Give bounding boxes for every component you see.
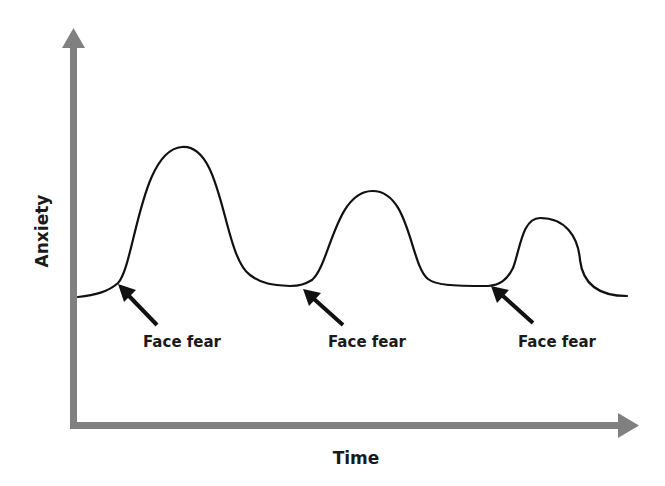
annotation-face-fear-2: Face fear: [328, 333, 406, 351]
x-axis-label: Time: [333, 448, 380, 468]
y-axis-arrowhead-icon: [62, 28, 85, 48]
x-axis-arrowhead-icon: [618, 413, 639, 438]
face-fear-arrow-2: [303, 289, 343, 325]
chart-canvas: [0, 0, 665, 486]
x-axis: [70, 413, 639, 438]
y-axis-label: Anxiety: [32, 195, 52, 268]
annotation-face-fear-3: Face fear: [518, 333, 596, 351]
face-fear-arrow-1: [118, 284, 157, 325]
y-axis: [62, 28, 85, 429]
annotation-face-fear-1: Face fear: [143, 333, 221, 351]
anxiety-time-chart: Anxiety Time Face fear Face fear Face fe…: [0, 0, 665, 486]
anxiety-curve: [78, 147, 627, 297]
face-fear-arrow-3: [491, 286, 533, 323]
